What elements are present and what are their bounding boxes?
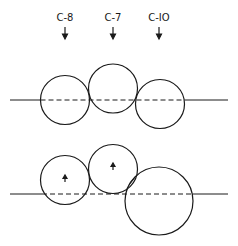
down-arrow-icon-c10: [157, 27, 162, 39]
up-arrow-icon-c8: [63, 175, 67, 182]
label-c8: C-8: [57, 12, 74, 23]
circle-c10: [136, 80, 185, 129]
top-row: [10, 64, 228, 129]
down-arrow-icon-c7: [111, 27, 116, 39]
label-c7: C-7: [105, 12, 122, 23]
down-arrow-icon-c8: [63, 27, 68, 39]
up-arrow-icon-c7: [111, 163, 115, 170]
bottom-row: [10, 145, 228, 236]
circle-c7: [89, 64, 138, 113]
diagram-canvas: C-8 C-7 C-IO: [0, 0, 238, 246]
down-arrow-icons: [63, 27, 162, 39]
label-c10: C-IO: [148, 12, 170, 23]
